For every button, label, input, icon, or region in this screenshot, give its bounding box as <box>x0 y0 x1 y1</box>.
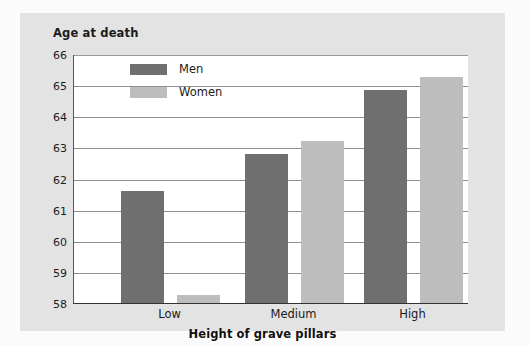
figure-card: Age at death Men Women Height of grave p… <box>20 13 505 331</box>
bar-low-men <box>121 191 164 303</box>
bar-high-men <box>364 90 407 303</box>
x-tick-label-medium: Medium <box>234 309 354 321</box>
gridline-64 <box>74 117 468 118</box>
y-tick-label: 63 <box>27 143 67 154</box>
x-tick-label-low: Low <box>110 309 230 321</box>
bar-high-women <box>420 77 463 303</box>
gridline-66 <box>74 55 468 56</box>
legend-label-men: Men <box>179 64 203 76</box>
y-tick-label: 65 <box>27 81 67 92</box>
x-axis-title: Height of grave pillars <box>20 327 505 341</box>
legend-item-men: Men <box>130 58 260 81</box>
women-swatch-icon <box>130 87 167 98</box>
y-tick-label: 59 <box>27 268 67 279</box>
bar-low-women <box>177 295 220 303</box>
y-tick-label: 62 <box>27 175 67 186</box>
chart-legend: Men Women <box>130 58 260 104</box>
y-tick-label: 60 <box>27 237 67 248</box>
bar-medium-women <box>301 141 344 303</box>
chart-y-axis-title: Age at death <box>53 26 138 40</box>
y-tick-label: 66 <box>27 50 67 61</box>
y-tick-label: 64 <box>27 112 67 123</box>
bar-medium-men <box>245 154 288 303</box>
y-tick-label: 61 <box>27 206 67 217</box>
x-tick-label-high: High <box>353 309 473 321</box>
legend-item-women: Women <box>130 81 260 104</box>
y-tick-label: 58 <box>27 299 67 310</box>
legend-label-women: Women <box>179 87 222 99</box>
men-swatch-icon <box>130 64 167 75</box>
gridline-63 <box>74 148 468 149</box>
